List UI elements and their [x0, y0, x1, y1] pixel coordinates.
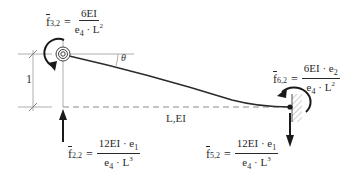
formula-f32: f3,2 = 6EI e4 · L2 [46, 7, 103, 38]
formula-f52-denominator: e4 · L3 [242, 154, 270, 171]
rotational-spring-node [56, 47, 70, 61]
formula-f22-subscript: 2,2 [72, 151, 82, 160]
formula-f22: f2,2 = 12EI · e1 e4 · L3 [68, 137, 140, 171]
equals-sign: = [224, 147, 231, 162]
theta-arc [116, 54, 118, 66]
beam-label: L,EI [166, 112, 186, 124]
formula-f62: f6,2 = 6EI · e2 e4 · L2 [273, 62, 340, 96]
formula-f52-subscript: 5,2 [210, 151, 220, 160]
formula-f62-denominator: e4 · L2 [307, 79, 335, 96]
equals-sign: = [86, 147, 93, 162]
equals-sign: = [64, 15, 71, 30]
force-arrow-up [59, 109, 67, 142]
unit-displacement-label: 1 [26, 72, 32, 87]
formula-f32-denominator: e4 · L2 [75, 21, 103, 38]
formula-f62-subscript: 6,2 [277, 76, 287, 85]
formula-f62-numerator: 6EI · e2 [302, 62, 340, 79]
theta-label: θ [121, 52, 126, 63]
equals-sign: = [291, 72, 298, 87]
formula-f52-numerator: 12EI · e1 [235, 137, 278, 154]
right-node [287, 104, 292, 109]
formula-f22-numerator: 12EI · e1 [97, 137, 140, 154]
formula-f32-numerator: 6EI [79, 7, 99, 21]
formula-f32-subscript: 3,2 [50, 19, 60, 28]
fixed-wall [292, 94, 302, 122]
formula-f22-denominator: e4 · L3 [104, 154, 132, 171]
deformed-beam [65, 55, 290, 107]
formula-f52: f5,2 = 12EI · e1 e4 · L3 [206, 137, 278, 171]
